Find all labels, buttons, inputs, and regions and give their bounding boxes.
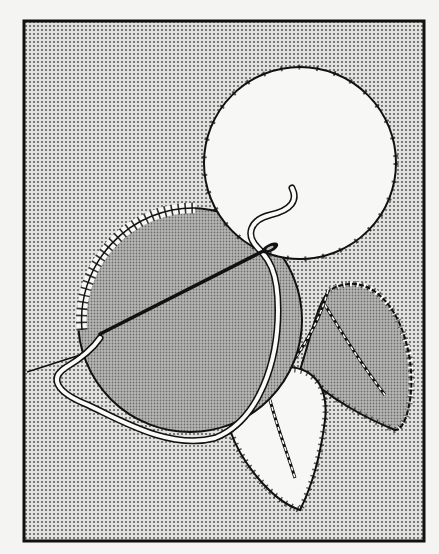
white-circle-patch [204, 67, 396, 259]
embroidery-illustration [0, 0, 439, 554]
illustration [0, 0, 439, 554]
